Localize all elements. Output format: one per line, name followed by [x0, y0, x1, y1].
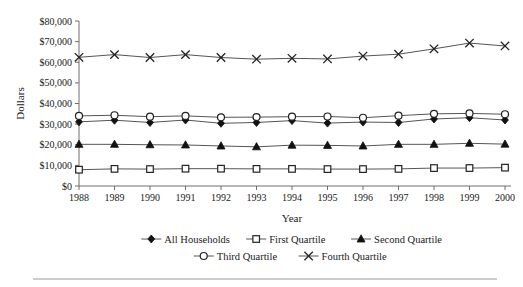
chart-legend: All HouseholdsFirst QuartileSecond Quart…	[141, 234, 442, 262]
x-tick-label: 1991	[176, 192, 196, 203]
legend-item-first-quartile[interactable]: First Quartile	[246, 234, 326, 245]
marker-open-circle	[289, 113, 296, 120]
legend-label: First Quartile	[269, 234, 326, 245]
marker-open-square	[218, 165, 225, 172]
x-tick-label: 1997	[389, 192, 409, 203]
legend-label: Third Quartile	[217, 251, 278, 262]
y-tick-label: $20,000	[40, 139, 73, 150]
marker-open-square	[360, 166, 367, 173]
x-tick-label: 1988	[69, 192, 89, 203]
marker-filled-triangle	[288, 141, 296, 148]
marker-open-circle	[431, 110, 438, 117]
marker-open-circle	[253, 114, 260, 121]
marker-open-square	[76, 166, 83, 173]
marker-open-circle	[395, 112, 402, 119]
series-third-quartile	[76, 110, 509, 121]
y-tick-label: $0	[62, 181, 72, 192]
marker-filled-triangle	[430, 140, 438, 147]
chart-figure: $0$10,000$20,000$30,000$40,000$50,000$60…	[0, 0, 523, 287]
marker-open-square	[147, 166, 154, 173]
legend-item-fourth-quartile[interactable]: Fourth Quartile	[299, 251, 387, 262]
legend-item-third-quartile[interactable]: Third Quartile	[194, 251, 278, 262]
marker-open-square	[182, 165, 189, 172]
series-polyline	[79, 43, 505, 59]
marker-filled-triangle	[111, 140, 119, 147]
y-tick-label: $10,000	[40, 160, 73, 171]
x-tick-label: 1999	[460, 192, 480, 203]
y-axis-title: Dollars	[14, 87, 26, 119]
legend-item-second-quartile[interactable]: Second Quartile	[351, 234, 442, 245]
income-by-quartile-line-chart: $0$10,000$20,000$30,000$40,000$50,000$60…	[0, 0, 523, 287]
marker-open-circle	[200, 253, 207, 260]
y-tick-label: $70,000	[40, 36, 73, 47]
x-tick-label: 2000	[495, 192, 515, 203]
series-fourth-quartile	[75, 39, 509, 63]
marker-open-square	[466, 165, 473, 172]
marker-open-square	[253, 236, 260, 243]
marker-open-circle	[466, 110, 473, 117]
y-tick-label: $50,000	[40, 77, 73, 88]
legend-label: Fourth Quartile	[322, 251, 387, 262]
y-tick-label: $60,000	[40, 57, 73, 68]
marker-filled-triangle	[217, 142, 225, 149]
x-axis-title: Year	[282, 212, 303, 224]
y-tick-label: $40,000	[40, 98, 73, 109]
x-tick-label: 1990	[140, 192, 160, 203]
marker-open-circle	[502, 111, 509, 118]
x-tick-label: 1992	[211, 192, 231, 203]
marker-open-square	[324, 166, 331, 173]
marker-filled-triangle	[75, 140, 83, 147]
x-tick-label: 1995	[318, 192, 338, 203]
marker-filled-triangle	[357, 235, 365, 242]
marker-filled-triangle	[146, 141, 154, 148]
marker-filled-diamond	[148, 235, 155, 243]
x-tick-label: 1996	[353, 192, 373, 203]
marker-open-square	[289, 166, 296, 173]
marker-open-square	[431, 165, 438, 172]
marker-open-circle	[147, 113, 154, 120]
y-axis: $0$10,000$20,000$30,000$40,000$50,000$60…	[40, 16, 80, 192]
y-tick-label: $80,000	[40, 16, 73, 27]
marker-open-circle	[218, 114, 225, 121]
legend-label: All Households	[164, 234, 230, 245]
marker-filled-triangle	[466, 139, 474, 146]
marker-open-circle	[324, 113, 331, 120]
marker-open-square	[253, 166, 260, 173]
y-tick-label: $30,000	[40, 119, 73, 130]
x-tick-label: 1989	[105, 192, 125, 203]
marker-filled-triangle	[501, 140, 509, 147]
marker-filled-triangle	[182, 141, 190, 148]
marker-open-circle	[182, 112, 189, 119]
series-first-quartile	[76, 164, 509, 173]
marker-open-circle	[76, 112, 83, 119]
x-tick-label: 1998	[424, 192, 444, 203]
legend-item-all-households[interactable]: All Households	[141, 234, 230, 245]
marker-open-square	[111, 166, 118, 173]
x-axis: 1988198919901991199219931994199519961997…	[69, 186, 515, 203]
marker-filled-triangle	[324, 141, 332, 148]
marker-open-square	[395, 166, 402, 173]
x-tick-label: 1994	[282, 192, 302, 203]
series-second-quartile	[75, 139, 509, 150]
marker-open-circle	[111, 112, 118, 119]
legend-label: Second Quartile	[374, 234, 442, 245]
marker-open-square	[502, 164, 509, 171]
x-tick-label: 1993	[247, 192, 267, 203]
marker-filled-triangle	[395, 140, 403, 147]
marker-open-circle	[360, 114, 367, 121]
